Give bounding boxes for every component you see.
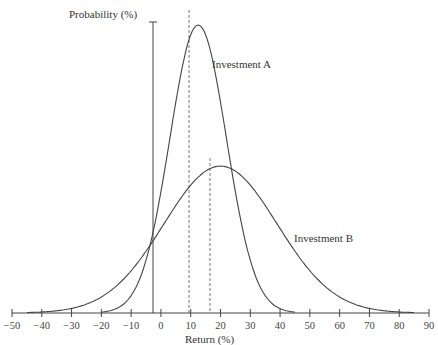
x-tick-label: 40 [275, 320, 286, 331]
x-tick-label: −50 [4, 320, 20, 331]
x-tick-label: −30 [63, 320, 79, 331]
x-tick-label: 10 [185, 320, 196, 331]
x-tick-label: −10 [123, 320, 139, 331]
x-tick-label: 60 [334, 320, 345, 331]
x-tick-label: 30 [245, 320, 256, 331]
x-tick-label: 20 [215, 320, 226, 331]
x-axis-label: Return (%) [185, 333, 234, 345]
x-tick-label: −20 [93, 320, 109, 331]
x-tick-label: 0 [158, 320, 163, 331]
x-tick-label: 80 [394, 320, 405, 331]
x-tick-label: −40 [34, 320, 50, 331]
x-axis [12, 309, 429, 317]
x-tick-label: 90 [424, 320, 435, 331]
series-label-b: Investment B [294, 232, 353, 244]
y-axis-label: Probability (%) [69, 8, 137, 20]
x-tick-label: 50 [305, 320, 316, 331]
distribution-chart [0, 0, 438, 345]
x-tick-label: 70 [364, 320, 375, 331]
curve-investment-b [27, 166, 414, 313]
series-label-a: Investment A [212, 58, 271, 70]
